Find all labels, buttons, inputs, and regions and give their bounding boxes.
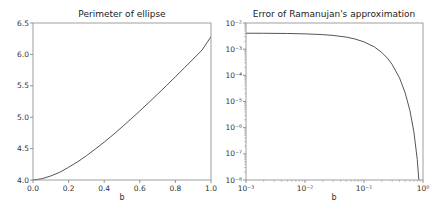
y-tick-label: 10⁻⁴ (225, 71, 242, 80)
x-tick-label: 1.0 (205, 184, 217, 193)
chart-title: Error of Ramanujan's approximation (253, 9, 415, 19)
axes-frame (246, 23, 423, 180)
x-tick-label: 10⁰ (417, 184, 430, 193)
y-tick-label: 4.0 (17, 176, 29, 185)
y-tick-label: 10⁻² (225, 19, 242, 28)
x-tick-label: 0.8 (169, 184, 181, 193)
y-tick-label: 6.5 (17, 19, 29, 28)
y-tick-label: 5.0 (17, 113, 29, 122)
x-axis-label: b (119, 193, 124, 202)
y-tick-label: 5.5 (17, 81, 29, 90)
y-tick-label: 10⁻⁵ (225, 97, 242, 106)
y-tick-label: 10⁻⁶ (225, 123, 242, 132)
x-tick-label: 0.4 (98, 184, 110, 193)
axes-frame (33, 23, 211, 180)
x-tick-label: 10⁻³ (238, 184, 255, 193)
axis-ticks: 0.00.20.40.60.81.04.04.55.05.56.06.5 (17, 19, 217, 194)
y-tick-label: 6.0 (17, 50, 29, 59)
y-tick-label: 4.5 (17, 144, 29, 153)
ramanujan-error-chart: Error of Ramanujan's approximation 10⁻³1… (225, 9, 429, 202)
x-tick-label: 0.0 (27, 184, 39, 193)
chart-title: Perimeter of ellipse (78, 9, 166, 19)
y-tick-label: 10⁻⁸ (225, 176, 242, 185)
x-axis-label: b (331, 193, 336, 202)
x-tick-label: 0.2 (63, 184, 75, 193)
error-line (246, 33, 419, 180)
y-tick-label: 10⁻³ (225, 45, 242, 54)
x-tick-label: 10⁻¹ (356, 184, 373, 193)
figure: Perimeter of ellipse 0.00.20.40.60.81.04… (0, 0, 446, 213)
y-tick-label: 10⁻⁷ (225, 149, 242, 158)
x-tick-label: 10⁻² (297, 184, 314, 193)
perimeter-chart: Perimeter of ellipse 0.00.20.40.60.81.04… (17, 9, 217, 202)
x-tick-label: 0.6 (134, 184, 146, 193)
perimeter-line (33, 37, 211, 180)
axis-ticks: 10⁻³10⁻²10⁻¹10⁰10⁻⁸10⁻⁷10⁻⁶10⁻⁵10⁻⁴10⁻³1… (225, 19, 429, 194)
